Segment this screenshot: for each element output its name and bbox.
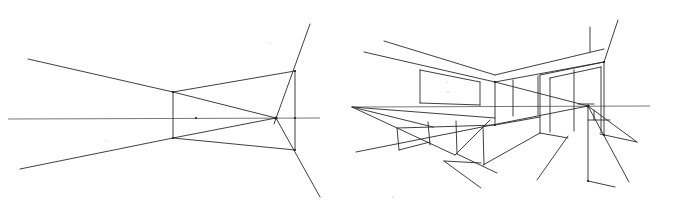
right-vertex-point bbox=[494, 81, 496, 83]
right-construction-line bbox=[384, 41, 495, 75]
left-construction-line bbox=[28, 59, 173, 92]
left-vertex-point bbox=[294, 149, 296, 151]
right-vertex-point bbox=[603, 134, 605, 136]
right-construction-line bbox=[399, 142, 430, 150]
right-construction-line bbox=[483, 126, 484, 165]
left-construction-line bbox=[173, 138, 295, 150]
right-construction-line bbox=[364, 52, 495, 82]
right-construction-line bbox=[540, 133, 568, 138]
right-construction-line bbox=[483, 133, 540, 165]
right-construction-line bbox=[356, 106, 588, 152]
left-construction-line bbox=[20, 138, 173, 169]
right-construction-line bbox=[457, 154, 497, 173]
right-construction-line bbox=[495, 117, 540, 125]
right-construction-line bbox=[352, 107, 455, 155]
perspective-sketch-canvas bbox=[0, 0, 681, 216]
left-vertex-point bbox=[172, 137, 174, 139]
right-vanishing-point bbox=[586, 104, 589, 107]
right-construction-line bbox=[444, 161, 481, 163]
right-construction-line bbox=[588, 181, 615, 187]
right-construction-line bbox=[495, 49, 604, 75]
right-vertex-point bbox=[603, 61, 605, 63]
right-horizon-line bbox=[352, 106, 650, 107]
left-construction-line bbox=[276, 118, 320, 197]
right-construction-line bbox=[444, 161, 481, 188]
right-construction-line bbox=[604, 20, 618, 62]
right-construction-line bbox=[397, 127, 433, 128]
right-interior-perspective-sketch bbox=[352, 20, 650, 188]
left-vertex-point bbox=[195, 117, 197, 119]
right-vertex-point bbox=[494, 124, 496, 126]
left-vanishing-point bbox=[274, 116, 277, 119]
right-construction-line bbox=[397, 128, 399, 150]
left-vertex-point bbox=[172, 91, 174, 93]
right-construction-line bbox=[420, 103, 480, 105]
left-construction-line bbox=[173, 92, 276, 118]
left-construction-line bbox=[173, 71, 295, 92]
right-construction-line bbox=[550, 67, 601, 78]
left-vertex-point bbox=[294, 117, 296, 119]
right-vertex-point bbox=[587, 180, 589, 182]
right-construction-line bbox=[537, 136, 568, 180]
left-construction-line bbox=[173, 118, 276, 138]
right-construction-line bbox=[428, 122, 430, 145]
left-vertex-point bbox=[294, 70, 296, 72]
left-perspective-sketch bbox=[8, 24, 320, 197]
